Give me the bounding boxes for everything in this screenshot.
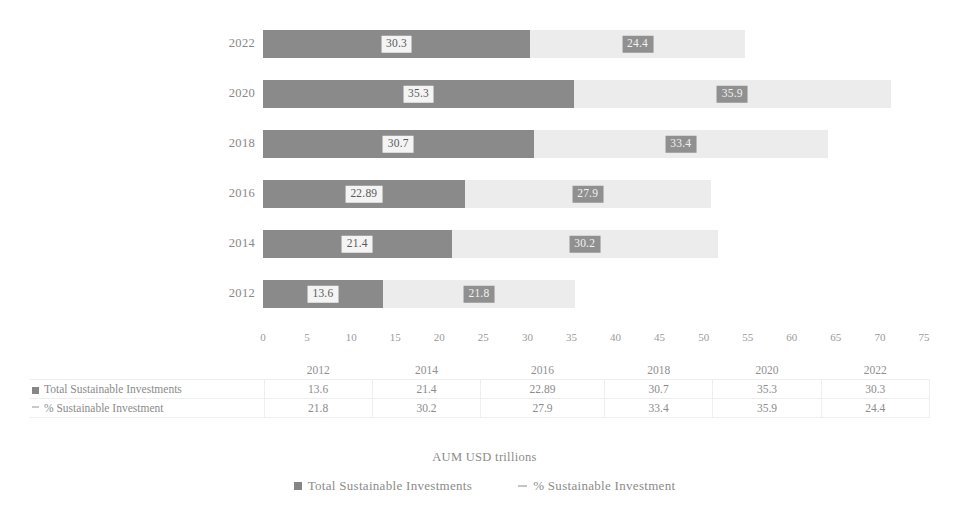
- x-tick-25: 25: [478, 331, 489, 343]
- table-column-header-2018: 2018: [604, 361, 712, 380]
- chart-container: 202220202018201620142012 30.324.435.335.…: [0, 0, 969, 532]
- table-cell-0-4: 35.3: [713, 380, 821, 399]
- table-cell-1-5: 24.4: [821, 399, 929, 418]
- table-cell-0-5: 30.3: [821, 380, 929, 399]
- legend-line-swatch-icon: [518, 485, 527, 487]
- series-square-marker-icon: [32, 387, 39, 394]
- x-tick-0: 0: [260, 331, 266, 343]
- bar-label-percent-2020: 35.9: [717, 86, 748, 103]
- table-cell-1-4: 35.9: [713, 399, 821, 418]
- bar-row-2012: 13.621.8: [263, 280, 924, 308]
- table-column-header-2012: 2012: [264, 361, 372, 380]
- bar-label-percent-2022: 24.4: [622, 36, 653, 53]
- table-cell-0-1: 21.4: [372, 380, 480, 399]
- legend-square-swatch-icon: [294, 482, 302, 490]
- bar-row-2014: 21.430.2: [263, 230, 924, 258]
- series-line-marker-icon: [32, 406, 39, 410]
- table-row-label-text: Total Sustainable Investments: [44, 383, 182, 395]
- bar-row-2022: 30.324.4: [263, 30, 924, 58]
- chart-legend: Total Sustainable Investments% Sustainab…: [0, 478, 969, 494]
- x-tick-55: 55: [742, 331, 753, 343]
- table-column-header-2014: 2014: [372, 361, 480, 380]
- y-axis-label-2012: 2012: [205, 286, 255, 301]
- table-row-label-1: % Sustainable Investment: [30, 399, 264, 418]
- y-axis-category-labels: 202220202018201620142012: [205, 26, 255, 326]
- bar-label-percent-2018: 33.4: [665, 136, 696, 153]
- table-cell-0-3: 30.7: [604, 380, 712, 399]
- table-row: % Sustainable Investment21.830.227.933.4…: [30, 399, 930, 418]
- table-row: Total Sustainable Investments13.621.422.…: [30, 380, 930, 399]
- table-column-header-2016: 2016: [481, 361, 605, 380]
- legend-item-1[interactable]: % Sustainable Investment: [518, 478, 675, 494]
- bar-label-percent-2016: 27.9: [572, 186, 603, 203]
- table-cell-0-2: 22.89: [481, 380, 605, 399]
- table-header-row: 201220142016201820202022: [30, 361, 930, 380]
- x-tick-70: 70: [874, 331, 885, 343]
- bar-row-2016: 22.8927.9: [263, 180, 924, 208]
- y-axis-label-2020: 2020: [205, 86, 255, 101]
- x-tick-30: 30: [522, 331, 533, 343]
- data-table-body: 201220142016201820202022Total Sustainabl…: [30, 361, 930, 418]
- table-column-header-2022: 2022: [821, 361, 929, 380]
- y-axis-label-2018: 2018: [205, 136, 255, 151]
- plot-area: 30.324.435.335.930.733.422.8927.921.430.…: [263, 26, 924, 326]
- bar-label-total-2020: 35.3: [403, 86, 434, 103]
- y-axis-label-2022: 2022: [205, 36, 255, 51]
- x-tick-75: 75: [919, 331, 930, 343]
- x-tick-20: 20: [434, 331, 445, 343]
- bar-label-total-2016: 22.89: [345, 186, 382, 203]
- table-row-label-0: Total Sustainable Investments: [30, 380, 264, 399]
- x-axis-ticks: 051015202530354045505560657075: [263, 331, 924, 347]
- table-cell-1-2: 27.9: [481, 399, 605, 418]
- bar-label-total-2012: 13.6: [307, 286, 338, 303]
- table-row-label-text: % Sustainable Investment: [44, 402, 163, 414]
- bar-label-percent-2014: 30.2: [569, 236, 600, 253]
- x-tick-45: 45: [654, 331, 665, 343]
- data-table: 201220142016201820202022Total Sustainabl…: [30, 361, 930, 418]
- x-tick-65: 65: [830, 331, 841, 343]
- table-cell-1-0: 21.8: [264, 399, 372, 418]
- x-tick-5: 5: [304, 331, 310, 343]
- table-cell-1-1: 30.2: [372, 399, 480, 418]
- axis-title: AUM USD trillions: [0, 450, 969, 465]
- bar-label-total-2014: 21.4: [342, 236, 373, 253]
- bar-label-percent-2012: 21.8: [463, 286, 494, 303]
- bar-label-total-2022: 30.3: [381, 36, 412, 53]
- x-tick-60: 60: [786, 331, 797, 343]
- x-tick-50: 50: [698, 331, 709, 343]
- bar-row-2018: 30.733.4: [263, 130, 924, 158]
- x-tick-10: 10: [346, 331, 357, 343]
- bar-label-total-2018: 30.7: [383, 136, 414, 153]
- x-tick-40: 40: [610, 331, 621, 343]
- table-column-header-2020: 2020: [713, 361, 821, 380]
- bar-row-2020: 35.335.9: [263, 80, 924, 108]
- table-cell-0-0: 13.6: [264, 380, 372, 399]
- table-cell-1-3: 33.4: [604, 399, 712, 418]
- legend-label: % Sustainable Investment: [533, 478, 675, 494]
- x-tick-15: 15: [390, 331, 401, 343]
- legend-item-0[interactable]: Total Sustainable Investments: [294, 478, 472, 494]
- y-axis-label-2014: 2014: [205, 236, 255, 251]
- x-tick-35: 35: [566, 331, 577, 343]
- legend-label: Total Sustainable Investments: [308, 478, 472, 494]
- table-corner-cell: [30, 361, 264, 380]
- y-axis-label-2016: 2016: [205, 186, 255, 201]
